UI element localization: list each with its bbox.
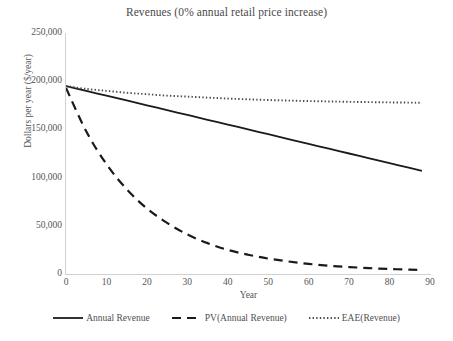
y-axis-title: Dollars per year ($/year) <box>23 26 33 176</box>
x-axis-tick-label: 30 <box>172 277 202 287</box>
legend-label: PV(Annual Revenue) <box>205 313 287 323</box>
x-axis-tick-label: 0 <box>51 277 81 287</box>
legend-swatch-dashed-icon <box>172 314 202 322</box>
legend-item[interactable]: Annual Revenue <box>53 313 150 323</box>
y-axis-tick-label: 100,000 <box>4 172 62 182</box>
legend-label: Annual Revenue <box>86 313 150 323</box>
y-axis-tick-label: 50,000 <box>4 220 62 230</box>
chart-legend: Annual RevenuePV(Annual Revenue)EAE(Reve… <box>0 313 453 323</box>
series-svg <box>66 33 430 274</box>
y-axis-tick-label: 250,000 <box>4 27 62 37</box>
series-line-2 <box>66 86 422 103</box>
chart-container: Revenues (0% annual retail price increas… <box>0 0 453 341</box>
x-axis-tick-label: 50 <box>253 277 283 287</box>
x-axis-title: Year <box>66 290 431 300</box>
legend-swatch-dotted-icon <box>309 314 339 322</box>
legend-item[interactable]: PV(Annual Revenue) <box>172 313 287 323</box>
x-axis-tick-label: 70 <box>334 277 364 287</box>
y-axis-tick-label: 200,000 <box>4 75 62 85</box>
legend-label: EAE(Revenue) <box>342 313 400 323</box>
plot-area <box>66 33 430 274</box>
x-axis-tick-label: 20 <box>132 277 162 287</box>
x-axis-tick-label: 60 <box>294 277 324 287</box>
x-axis-tick-label: 10 <box>91 277 121 287</box>
y-axis-tick-label: 150,000 <box>4 123 62 133</box>
legend-swatch-solid-icon <box>53 314 83 322</box>
x-axis-tick-label: 90 <box>415 277 445 287</box>
chart-title: Revenues (0% annual retail price increas… <box>0 6 453 18</box>
x-axis-tick-label: 80 <box>375 277 405 287</box>
x-axis-line <box>66 274 431 275</box>
series-line-0 <box>66 86 422 171</box>
series-line-1 <box>66 88 422 270</box>
legend-item[interactable]: EAE(Revenue) <box>309 313 400 323</box>
x-axis-tick-label: 40 <box>213 277 243 287</box>
